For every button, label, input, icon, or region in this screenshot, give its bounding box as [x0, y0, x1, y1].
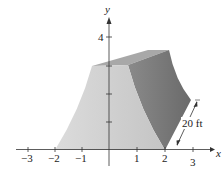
dimension-label: 20 ft	[182, 117, 202, 129]
y-tick-label: 4	[98, 31, 104, 43]
x-tick-label: 2	[162, 152, 168, 164]
x-tick-label: 3	[190, 156, 196, 168]
x-tick-label: −2	[48, 152, 60, 164]
arrowhead-bottom-icon	[177, 140, 181, 146]
x-tick-label: −3	[21, 152, 33, 164]
arrowhead-top-icon	[194, 101, 198, 107]
figure: −3 −2 −1 1 2 3 4 x y 20 ft	[0, 0, 223, 174]
x-tick-label: −1	[75, 152, 87, 164]
x-tick-label: 1	[134, 152, 140, 164]
x-axis-label: x	[215, 147, 221, 159]
solid-diagram: −3 −2 −1 1 2 3 4 x y 20 ft	[0, 0, 223, 174]
y-axis-label: y	[104, 3, 110, 15]
x-axis-arrow-icon	[210, 147, 215, 152]
y-axis-arrow-icon	[107, 17, 112, 24]
